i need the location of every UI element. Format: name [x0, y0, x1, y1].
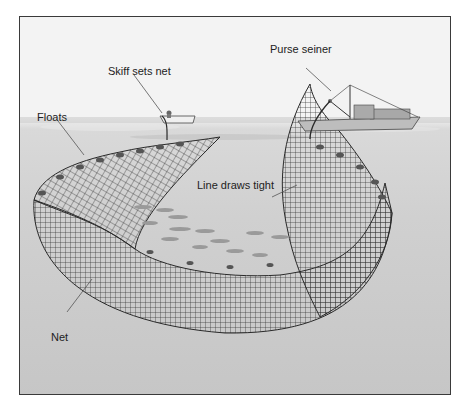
label-purse-seiner: Purse seiner: [270, 43, 332, 55]
fish-school: [134, 205, 289, 257]
label-line-draws-tight: Line draws tight: [197, 179, 274, 191]
purse-seine-scene: [20, 17, 451, 395]
diagram-frame: Purse seiner Skiff sets net Floats Line …: [19, 16, 451, 395]
label-net: Net: [51, 331, 68, 343]
label-floats: Floats: [37, 111, 67, 123]
label-skiff-sets-net: Skiff sets net: [108, 65, 171, 77]
